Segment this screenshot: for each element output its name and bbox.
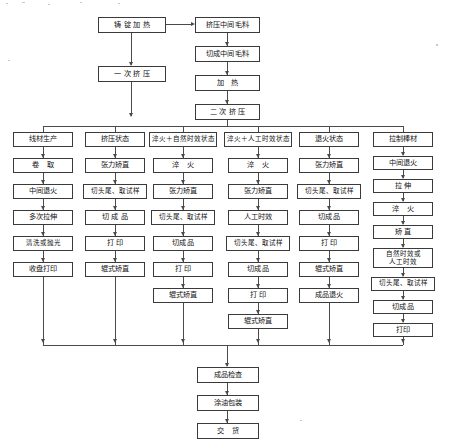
node-c4-s4: 切头尾、取试样: [226, 236, 290, 251]
node-c5-s1: 张力矫直: [299, 158, 359, 173]
scan-artifact: [8, 60, 10, 61]
node-c2-s2: 切头尾、取试样: [83, 184, 147, 199]
node-c4-s1: 淬 火: [228, 158, 288, 173]
connector-c1-to-collector: [43, 277, 44, 345]
node-extrusion-intermediate-billet: 挤压中间毛料: [195, 17, 260, 33]
collector-bar: [43, 345, 403, 346]
arrowhead-down: [327, 339, 331, 343]
process-flowchart: 铸锭加热 一次挤压 挤压中间毛料 切成中间毛料 加 热 二次挤压 线材生产 卷 …: [0, 0, 450, 442]
node-final-inspection: 成品检查: [197, 367, 259, 383]
column-header-annealed: 退火状态: [299, 132, 359, 147]
node-c1-s3: 多次拉伸: [13, 210, 73, 225]
node-c2-s3: 切 成 品: [85, 210, 145, 225]
node-c1-s1: 卷 取: [13, 158, 73, 173]
node-c5-s2: 切头尾、取试样: [297, 184, 361, 199]
node-c1-s4: 清洗或抛光: [13, 236, 73, 251]
node-c6-s5: 自然时效或 人工时效: [373, 248, 433, 268]
node-c6-s3: 淬 火: [373, 202, 433, 216]
column-header-quench-natural-aging: 淬火＋自然时效状态: [149, 132, 217, 147]
node-c4-s2: 张力矫直: [228, 184, 288, 199]
node-c5-s6: 成品退火: [299, 288, 359, 303]
node-c6-s1: 中间退火: [373, 156, 433, 170]
node-c1-s5: 收盘打印: [13, 262, 73, 277]
column-header-drawn-bar: 拉制棒材: [373, 132, 433, 147]
node-c3-s1: 淬 火: [153, 158, 213, 173]
column-header-quench-artificial-aging: 淬火＋人工时效状态: [224, 132, 292, 147]
node-reheat: 加 热: [195, 75, 260, 91]
node-delivery: 交 货: [197, 423, 259, 439]
node-c4-s6: 打 印: [228, 288, 288, 303]
node-c3-s5: 打 印: [153, 262, 213, 277]
node-oiling-packaging: 涂油包装: [197, 395, 259, 411]
node-c3-s4: 切成品: [153, 236, 213, 251]
arrowhead-down: [181, 339, 185, 343]
node-c6-s2: 拉伸: [373, 179, 433, 193]
node-c1-s2: 中间退火: [13, 184, 73, 199]
node-c3-s6: 辊式矫直: [153, 288, 213, 303]
node-c4-s3: 人工时效: [228, 210, 288, 225]
distribution-bar: [43, 126, 403, 127]
node-c5-s5: 辊式矫直: [299, 262, 359, 277]
connector-c2-to-collector: [115, 277, 116, 345]
scan-artifact: [48, 4, 50, 5]
node-c6-s6: 切头尾、取试样: [371, 277, 435, 291]
node-cut-intermediate-billet: 切成中间毛料: [195, 46, 260, 62]
arrowhead-down: [256, 339, 260, 343]
node-c5-s3: 切成品: [299, 210, 359, 225]
node-c3-s3: 切头尾、取试样: [151, 210, 215, 225]
node-c2-s5: 辊式矫直: [85, 262, 145, 277]
column-header-as-extruded: 挤压状态: [85, 132, 145, 147]
connector-first-extrusion-to-distribution: [131, 82, 132, 116]
scan-artifact: [118, 3, 120, 4]
node-ingot-heating: 铸锭加热: [98, 17, 166, 33]
arrowhead-down: [401, 339, 405, 343]
node-c4-s5: 切成品: [228, 262, 288, 277]
arrowhead-down: [129, 113, 133, 117]
node-second-extrusion: 二次挤压: [195, 104, 260, 120]
scan-artifact: [6, 3, 8, 4]
connector-ingot-to-first-extrusion: [131, 33, 132, 65]
node-c6-s4: 矫直: [373, 225, 433, 239]
node-c5-s4: 打 印: [299, 236, 359, 251]
arrowhead-down: [41, 339, 45, 343]
arrowhead-down: [113, 339, 117, 343]
scan-artifact: [436, 44, 438, 46]
scan-artifact: [22, 2, 25, 3]
node-c4-s7: 辊式矫直: [228, 314, 288, 329]
node-c3-s2: 张力矫直: [153, 184, 213, 199]
node-c2-s1: 张力矫直: [85, 158, 145, 173]
node-c6-s8: 打印: [373, 323, 433, 337]
scan-artifact: [300, 420, 302, 421]
node-first-extrusion: 一次挤压: [98, 66, 166, 82]
column-header-wire-production: 线材生产: [13, 132, 73, 147]
scan-artifact: [80, 2, 82, 3]
connector-ingot-to-extrusion: [166, 24, 193, 25]
node-c6-s7: 切成品: [373, 300, 433, 314]
node-c2-s4: 打 印: [85, 236, 145, 251]
